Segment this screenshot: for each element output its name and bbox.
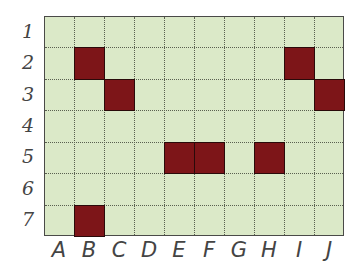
column-label: F bbox=[194, 240, 224, 261]
filled-cell-E5 bbox=[164, 142, 195, 174]
filled-cell-J3 bbox=[314, 79, 345, 111]
column-label: G bbox=[224, 240, 254, 261]
filled-cell-H5 bbox=[254, 142, 285, 174]
row-label: 2 bbox=[18, 53, 38, 72]
column-label: J bbox=[314, 240, 344, 261]
filled-cell-I2 bbox=[284, 47, 315, 79]
column-label: E bbox=[164, 240, 194, 261]
row-label: 5 bbox=[18, 147, 38, 166]
coordinate-grid bbox=[44, 16, 344, 236]
grid-vertical-line bbox=[224, 17, 225, 235]
row-label: 1 bbox=[18, 22, 38, 41]
column-label: D bbox=[134, 240, 164, 261]
row-label: 4 bbox=[18, 116, 38, 135]
filled-cell-B7 bbox=[74, 205, 105, 237]
column-label: B bbox=[74, 240, 104, 261]
column-label: H bbox=[254, 240, 284, 261]
grid-vertical-line bbox=[134, 17, 135, 235]
row-label: 6 bbox=[18, 179, 38, 198]
filled-cell-F5 bbox=[194, 142, 225, 174]
grid-vertical-line bbox=[164, 17, 165, 235]
filled-cell-B2 bbox=[74, 47, 105, 79]
row-label: 7 bbox=[18, 210, 38, 229]
grid-vertical-line bbox=[194, 17, 195, 235]
row-label: 3 bbox=[18, 85, 38, 104]
column-label: I bbox=[284, 240, 314, 261]
column-label: C bbox=[104, 240, 134, 261]
grid-horizontal-line bbox=[45, 110, 343, 111]
filled-cell-C3 bbox=[104, 79, 135, 111]
column-label: A bbox=[44, 240, 74, 261]
grid-vertical-line bbox=[254, 17, 255, 235]
